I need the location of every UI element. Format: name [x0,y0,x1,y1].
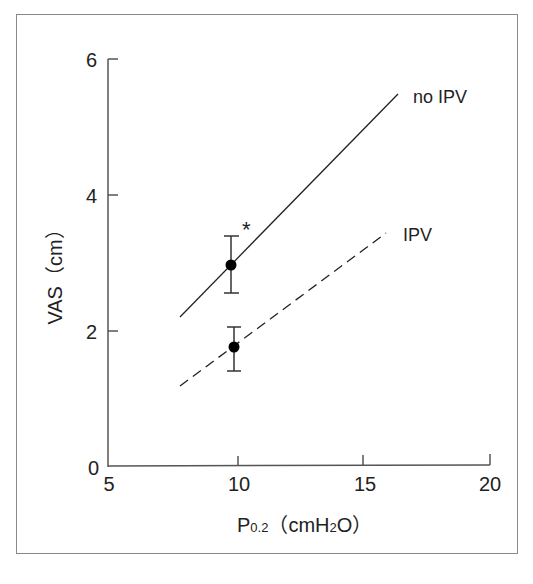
y-tick-label: 2 [86,321,97,343]
significance-asterisk: * [242,217,251,242]
chart-plot: 6 4 2 0 5 10 15 20 VAS（cm） P0.2（cmH2O） *… [0,0,533,584]
data-point-no-ipv [226,260,237,271]
y-tick-label: 6 [86,49,97,71]
y-axis [108,59,118,467]
series-no-ipv: * no IPV [180,87,467,317]
y-tick-label: 4 [86,185,97,207]
y-axis-label: VAS（cm） [44,219,66,324]
y-tick-label: 0 [88,457,99,479]
series-ipv: IPV [180,225,432,386]
series-label-no-ipv: no IPV [413,87,467,107]
series-label-ipv: IPV [403,225,432,245]
data-point-ipv [229,342,240,353]
x-tick-label: 15 [354,473,376,495]
x-axis-label: P0.2（cmH2O） [237,514,372,536]
x-tick-label: 5 [103,473,114,495]
x-tick-label: 10 [228,473,250,495]
x-tick-label: 20 [479,473,501,495]
x-axis [108,454,490,466]
